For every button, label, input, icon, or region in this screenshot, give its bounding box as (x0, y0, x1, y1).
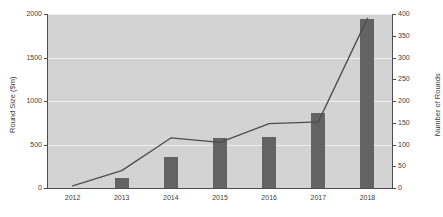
chart-figure: 0500100015002000 05010015020025030035040… (0, 0, 443, 217)
x-tick-label-2013: 2013 (102, 194, 142, 201)
x-tick-label-2014: 2014 (151, 194, 191, 201)
right-tick-mark (393, 58, 396, 59)
right-tick-label: 50 (398, 162, 406, 169)
line-series (48, 14, 392, 188)
right-tick-label: 100 (398, 141, 410, 148)
right-tick-mark (393, 14, 396, 15)
plot-area (48, 14, 392, 188)
right-tick-mark (393, 79, 396, 80)
left-axis-title: Round Size ($m) (9, 65, 17, 145)
bottom-axis-line (47, 188, 393, 189)
x-tick-label-2012: 2012 (53, 194, 93, 201)
right-tick-label: 400 (398, 10, 410, 17)
right-tick-mark (393, 145, 396, 146)
left-tick-label: 500 (30, 141, 42, 148)
left-tick-mark (44, 188, 47, 189)
left-tick-label: 1000 (26, 97, 42, 104)
right-tick-label: 200 (398, 97, 410, 104)
x-tick-label-2016: 2016 (249, 194, 289, 201)
right-tick-mark (393, 166, 396, 167)
left-axis-line (47, 14, 48, 189)
right-tick-mark (393, 101, 396, 102)
right-tick-label: 350 (398, 32, 410, 39)
left-tick-label: 2000 (26, 10, 42, 17)
x-tick-label-2018: 2018 (347, 194, 387, 201)
left-tick-mark (44, 14, 47, 15)
right-tick-label: 250 (398, 75, 410, 82)
right-tick-mark (393, 123, 396, 124)
left-tick-mark (44, 145, 47, 146)
x-tick-label-2017: 2017 (298, 194, 338, 201)
right-tick-label: 150 (398, 119, 410, 126)
line-path (73, 18, 368, 185)
left-tick-mark (44, 58, 47, 59)
x-tick-label-2015: 2015 (200, 194, 240, 201)
right-axis-title: Number of Rounds (434, 65, 442, 145)
right-tick-mark (393, 188, 396, 189)
right-tick-label: 0 (398, 184, 402, 191)
right-tick-mark (393, 36, 396, 37)
left-tick-mark (44, 101, 47, 102)
left-tick-label: 0 (38, 184, 42, 191)
right-tick-label: 300 (398, 54, 410, 61)
left-tick-label: 1500 (26, 54, 42, 61)
